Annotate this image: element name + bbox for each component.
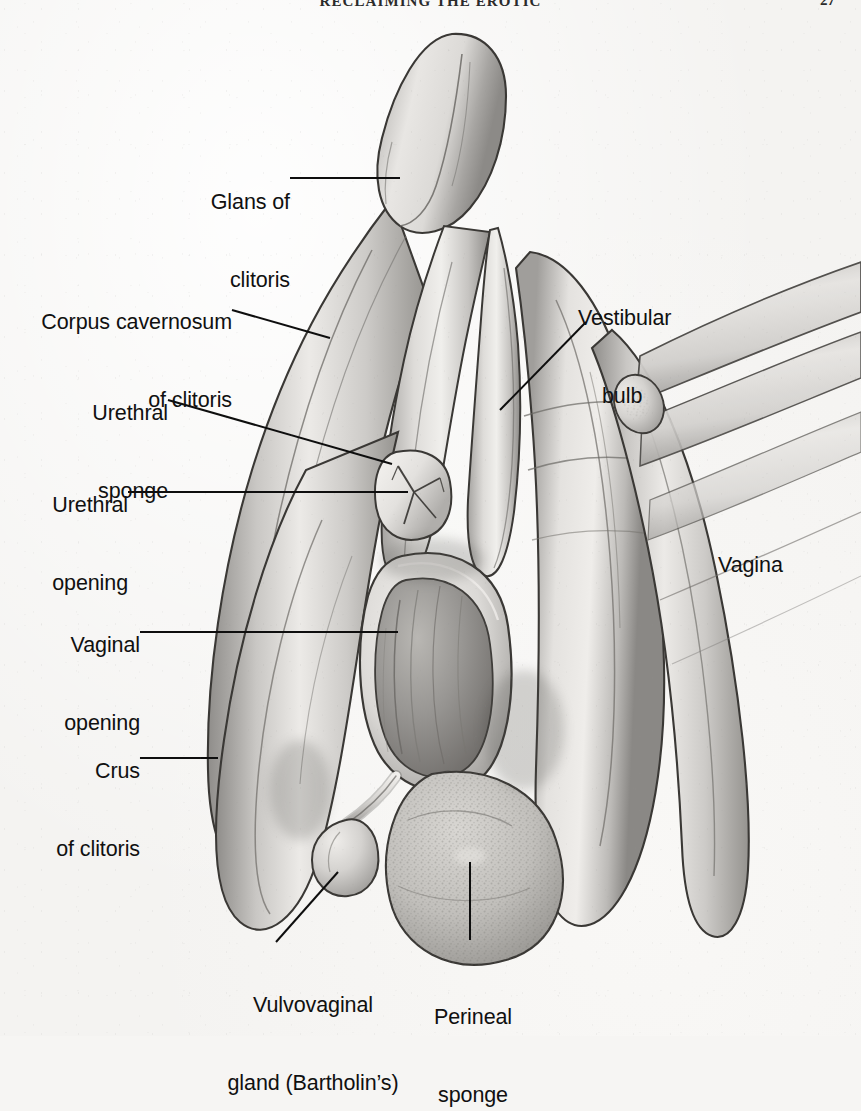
label-vestibular-bulb: Vestibular bulb	[578, 253, 778, 461]
structure-urethral-opening	[375, 450, 451, 539]
structure-glans-of-clitoris	[377, 34, 506, 233]
label-vagina: Vagina	[718, 500, 858, 630]
label-perineal-sponge: Perineal sponge	[408, 952, 538, 1111]
label-crus-of-clitoris: Crus of clitoris	[0, 706, 140, 914]
